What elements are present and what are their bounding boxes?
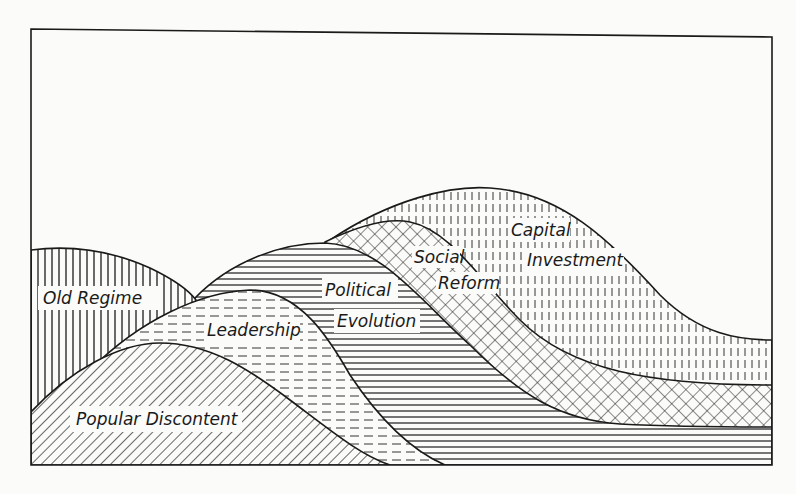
investment-label: Investment: [527, 250, 625, 270]
political-label: Political: [325, 280, 391, 300]
social-label: Social: [414, 247, 465, 267]
reform-label: Reform: [438, 273, 500, 293]
evolution-label: Evolution: [337, 311, 416, 331]
wave-diagram: Old Regime Popular Discontent Leadership…: [0, 0, 796, 494]
popular-discontent-label: Popular Discontent: [76, 409, 239, 429]
old-regime-label: Old Regime: [43, 288, 142, 308]
leadership-label: Leadership: [207, 320, 301, 340]
capital-label: Capital: [511, 220, 571, 240]
